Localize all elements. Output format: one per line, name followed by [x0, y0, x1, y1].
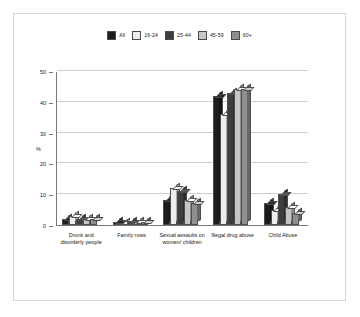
bar	[271, 210, 278, 225]
bar	[69, 216, 76, 225]
bar-top-face	[280, 192, 292, 196]
bar-group	[113, 222, 148, 225]
y-axis-title: %	[36, 146, 41, 152]
bar-front-face	[264, 203, 271, 225]
bar	[220, 114, 227, 225]
bar	[62, 219, 69, 225]
bar-top-face	[294, 211, 306, 215]
legend-item: 16-24	[132, 31, 158, 40]
bar-front-face	[62, 219, 69, 225]
bar-top-face	[179, 189, 191, 193]
bar-front-face	[285, 207, 292, 225]
bar	[163, 200, 170, 225]
bar-front-face	[177, 191, 184, 225]
x-axis-label: Illegal drug abuse	[207, 232, 257, 246]
bar	[177, 191, 184, 225]
bar-front-face	[227, 93, 234, 225]
bar-front-face	[90, 219, 97, 225]
y-axis-tick-mark	[49, 195, 53, 196]
bar	[141, 222, 148, 225]
gridline	[57, 70, 308, 71]
legend-label: All	[119, 32, 125, 38]
y-axis-tick-mark	[49, 72, 53, 73]
y-axis-tick-label: 50	[40, 69, 46, 75]
legend-swatch-icon	[165, 31, 174, 40]
legend-swatch-icon	[198, 31, 207, 40]
bar-front-face	[127, 222, 134, 225]
gridline	[57, 101, 308, 102]
bar	[292, 213, 299, 225]
bar	[170, 188, 177, 225]
legend-item: All	[107, 31, 125, 40]
bar-top-face	[266, 201, 278, 205]
bar	[264, 203, 271, 225]
bar	[191, 203, 198, 225]
bar	[184, 200, 191, 225]
y-axis-tick-label: 20	[40, 161, 46, 167]
bar-side-face	[247, 84, 251, 222]
bar	[234, 89, 241, 225]
bar	[90, 219, 97, 225]
y-axis-tick-label: 0	[43, 223, 46, 229]
bar	[120, 223, 127, 225]
legend-swatch-icon	[107, 31, 116, 40]
bar-front-face	[134, 222, 141, 225]
bar	[278, 194, 285, 225]
legend-item: 60+	[231, 31, 252, 40]
bar-front-face	[278, 194, 285, 225]
bar-front-face	[191, 203, 198, 225]
legend-label: 16-24	[144, 32, 158, 38]
y-axis-tick-mark	[49, 164, 53, 165]
bar-front-face	[170, 188, 177, 225]
legend-item: 25-44	[165, 31, 191, 40]
y-axis-tick-label: 40	[40, 100, 46, 106]
bar	[285, 207, 292, 225]
bar-group	[213, 89, 248, 225]
x-axis-label: Family rows	[106, 232, 156, 246]
y-axis-tick-mark	[49, 134, 53, 135]
bar	[213, 96, 220, 225]
y-axis: 01020304050	[0, 72, 54, 232]
bar-top-face	[243, 87, 255, 91]
bar-top-face	[287, 205, 299, 209]
legend-swatch-icon	[231, 31, 240, 40]
y-axis-tick-mark	[49, 226, 53, 227]
y-axis-tick-label: 30	[40, 131, 46, 137]
bar-group	[163, 188, 198, 225]
bar-front-face	[271, 210, 278, 225]
chart-legend: All16-2425-4445-5960+	[13, 26, 346, 44]
y-axis-tick-label: 10	[40, 192, 46, 198]
bar-front-face	[163, 200, 170, 225]
y-axis-tick-mark	[49, 103, 53, 104]
bar-group	[264, 194, 299, 225]
legend-label: 25-44	[177, 32, 191, 38]
bar-front-face	[184, 200, 191, 225]
bar-front-face	[292, 213, 299, 225]
gridline	[57, 162, 308, 163]
bar-group	[62, 216, 97, 225]
x-axis-label: Sexual assaults on women/ children	[157, 232, 207, 246]
x-axis-label: Drunk and disorderly people	[56, 232, 106, 246]
bar-front-face	[69, 216, 76, 225]
legend-swatch-icon	[132, 31, 141, 40]
bar-front-face	[213, 96, 220, 225]
bar	[241, 89, 248, 225]
bar-top-face	[193, 201, 205, 205]
bar	[83, 219, 90, 225]
x-axis-labels: Drunk and disorderly peopleFamily rowsSe…	[56, 232, 308, 246]
bar-top-face	[215, 94, 227, 98]
legend-label: 45-59	[210, 32, 224, 38]
bar-front-face	[234, 89, 241, 225]
bar	[113, 222, 120, 225]
bar-front-face	[76, 219, 83, 225]
plot-area	[56, 72, 308, 226]
legend-item: 45-59	[198, 31, 224, 40]
x-axis-label: Child Abuse	[258, 232, 308, 246]
gridline	[57, 132, 308, 133]
bar-front-face	[241, 89, 248, 225]
bar-front-face	[220, 114, 227, 225]
legend-label: 60+	[243, 32, 252, 38]
bar	[76, 219, 83, 225]
bar	[127, 222, 134, 225]
bar-front-face	[141, 222, 148, 225]
